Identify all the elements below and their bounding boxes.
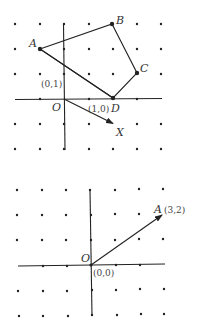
origin-label: O [81,252,90,265]
diagonal-ad [40,49,113,98]
point-label-c: C [140,62,149,75]
point-label-a: A [28,37,37,50]
vector-figure: O (0,0) A (3,2) [16,188,186,317]
polygon-figure: A B C D X O (0,1) (1,0) [14,14,162,150]
x-axis [15,99,162,100]
vector-oa [91,215,162,265]
point-label-b: B [115,14,124,27]
y-axis [64,24,66,150]
lattice-diagrams: A B C D X O (0,1) (1,0) O (0,0) A (3,2) [0,0,200,331]
point-label-x: X [115,126,125,139]
unit-y-label: (0,1) [41,79,62,89]
point-label-d: D [110,102,120,115]
origin-label: O [52,101,61,114]
y-axis [90,190,92,316]
origin-coord-label: (0,0) [93,268,114,278]
unit-x-label: (1,0) [88,104,109,114]
point-label-a: A [153,203,162,216]
point-coord-label-a: (3,2) [164,205,185,215]
